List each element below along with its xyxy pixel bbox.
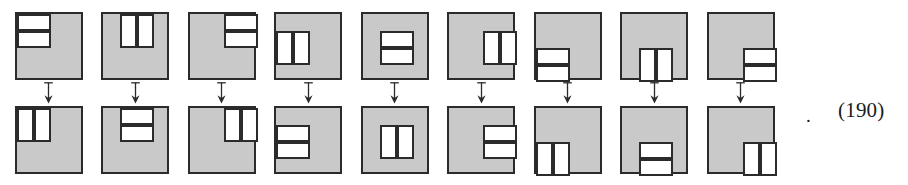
domino-pair-vertical-stack-top-left — [15, 12, 83, 80]
domino-pair-vertical-stack-top-center — [101, 106, 169, 174]
domino-pair-column — [620, 12, 689, 174]
down-arrow-icon — [360, 80, 429, 106]
domino-cell — [293, 31, 310, 65]
domino-pair-vertical-stack-bottom-left — [534, 12, 602, 80]
domino-cell — [536, 65, 570, 82]
domino-cell — [17, 31, 51, 48]
down-arrow-icon — [706, 80, 775, 106]
domino-pair-vertical-stack-bottom-center — [620, 106, 688, 174]
domino-cell — [536, 142, 553, 176]
domino-cell — [17, 108, 34, 142]
down-arrow-icon — [187, 80, 256, 106]
domino-cell — [380, 31, 414, 48]
domino-cell — [397, 125, 414, 159]
domino-pair-side-by-side-bottom-right — [707, 106, 775, 174]
domino-cell — [639, 48, 656, 82]
domino-pair-side-by-side-middle-right — [447, 12, 515, 80]
domino-pair-column — [101, 12, 170, 174]
domino-pair-column — [447, 12, 516, 174]
domino-cell — [224, 31, 258, 48]
domino-cell — [224, 14, 258, 31]
domino-cell — [743, 142, 760, 176]
domino-pair-side-by-side-top-right — [188, 106, 256, 174]
domino-pair-side-by-side-bottom-center — [620, 12, 688, 80]
domino-cell — [34, 108, 51, 142]
domino-cell — [120, 14, 137, 48]
domino-pair-vertical-stack-bottom-right — [707, 12, 775, 80]
domino-cell — [639, 142, 673, 159]
domino-cell — [17, 14, 51, 31]
equation-number: (190) — [838, 98, 885, 123]
domino-pair-side-by-side-top-center — [101, 12, 169, 80]
domino-cell — [120, 125, 154, 142]
down-arrow-icon — [274, 80, 343, 106]
domino-pair-side-by-side-top-left — [15, 106, 83, 174]
domino-pair-vertical-stack-top-right — [188, 12, 256, 80]
domino-cell — [743, 65, 777, 82]
domino-pair-column — [533, 12, 602, 174]
down-arrow-icon — [447, 80, 516, 106]
domino-transformation-figure: . (190) — [0, 0, 908, 185]
pair-columns — [14, 12, 793, 174]
domino-pair-column — [360, 12, 429, 174]
domino-pair-column — [706, 12, 775, 174]
domino-cell — [120, 108, 154, 125]
down-arrow-icon — [101, 80, 170, 106]
domino-cell — [483, 31, 500, 65]
domino-pair-vertical-stack-middle-left — [274, 106, 342, 174]
domino-cell — [241, 108, 258, 142]
domino-cell — [137, 14, 154, 48]
domino-pair-side-by-side-bottom-left — [534, 106, 602, 174]
domino-pair-side-by-side-middle-left — [274, 12, 342, 80]
domino-cell — [483, 125, 517, 142]
domino-pair-side-by-side-center — [361, 106, 429, 174]
domino-pair-vertical-stack-center — [361, 12, 429, 80]
trailing-period: . — [806, 106, 811, 125]
domino-cell — [276, 142, 310, 159]
down-arrow-icon — [14, 80, 83, 106]
domino-cell — [276, 125, 310, 142]
domino-cell — [743, 48, 777, 65]
down-arrow-icon — [620, 80, 689, 106]
domino-cell — [276, 31, 293, 65]
domino-cell — [500, 31, 517, 65]
domino-pair-vertical-stack-middle-right — [447, 106, 515, 174]
domino-cell — [760, 142, 777, 176]
down-arrow-icon — [533, 80, 602, 106]
domino-cell — [656, 48, 673, 82]
domino-cell — [639, 159, 673, 176]
domino-pair-column — [187, 12, 256, 174]
domino-cell — [224, 108, 241, 142]
domino-cell — [553, 142, 570, 176]
domino-pair-column — [274, 12, 343, 174]
domino-pair-column — [14, 12, 83, 174]
domino-cell — [536, 48, 570, 65]
domino-cell — [483, 142, 517, 159]
domino-cell — [380, 48, 414, 65]
domino-cell — [380, 125, 397, 159]
